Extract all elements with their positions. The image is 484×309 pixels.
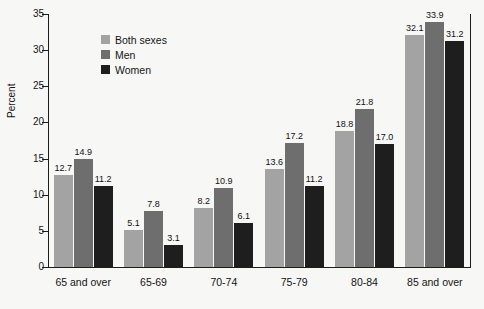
bar-value-label: 33.9 <box>426 10 444 21</box>
x-axis-category-label: 85 and over <box>407 276 462 288</box>
bar: 3.1 <box>164 245 183 267</box>
bar-value-label: 17.2 <box>285 131 303 142</box>
legend-item-label: Women <box>115 64 151 76</box>
bar: 17.2 <box>285 143 304 267</box>
bar: 11.2 <box>305 186 324 267</box>
bar: 7.8 <box>144 211 163 267</box>
bar-value-label: 6.1 <box>238 211 251 222</box>
bar-value-label: 5.1 <box>127 218 140 229</box>
bar-value-label: 32.1 <box>406 23 424 34</box>
bar-group: 8.210.96.1 <box>194 14 253 267</box>
y-axis-tick-label: 20 <box>33 115 44 128</box>
legend-swatch-icon <box>101 35 110 44</box>
x-axis-category-label: 65 and over <box>55 276 110 288</box>
chart-legend: Both sexesMenWomen <box>101 33 167 78</box>
x-axis-category-label: 65-69 <box>140 276 167 288</box>
y-axis-title: Percent <box>6 84 17 118</box>
bar-value-label: 11.2 <box>95 174 112 185</box>
bar: 5.1 <box>124 230 143 267</box>
bar: 6.1 <box>234 223 253 267</box>
bar-value-label: 31.2 <box>446 29 464 40</box>
legend-swatch-icon <box>101 65 110 74</box>
bar-group: 18.821.817.0 <box>335 14 394 267</box>
bar: 11.2 <box>94 186 113 267</box>
y-axis-tick-label: 25 <box>33 79 44 92</box>
x-axis-category-label: 70-74 <box>210 276 237 288</box>
x-axis-category-label: 80-84 <box>351 276 378 288</box>
bar: 14.9 <box>74 159 93 267</box>
plot-right-border <box>470 14 471 268</box>
bar: 12.7 <box>54 175 73 267</box>
bar-value-label: 7.8 <box>147 199 160 210</box>
bar-value-label: 8.2 <box>198 196 211 207</box>
bar: 31.2 <box>445 41 464 267</box>
bar: 33.9 <box>425 22 444 267</box>
bar: 32.1 <box>405 35 424 267</box>
bar-chart-figure: Percent 05101520253035 12.714.911.25.17.… <box>0 0 484 309</box>
y-axis-tick-label: 5 <box>38 224 44 237</box>
bar-value-label: 18.8 <box>336 119 354 130</box>
bar-value-label: 13.6 <box>265 157 283 168</box>
bar-value-label: 11.2 <box>306 174 323 185</box>
legend-item: Both sexes <box>101 33 167 46</box>
bar-group: 13.617.211.2 <box>265 14 324 267</box>
x-axis-category-label: 75-79 <box>281 276 308 288</box>
bar: 13.6 <box>265 169 284 267</box>
legend-item-label: Both sexes <box>115 34 167 46</box>
bar-value-label: 14.9 <box>74 147 92 158</box>
bar-value-label: 12.7 <box>54 163 72 174</box>
x-axis-line <box>48 267 471 268</box>
bar: 21.8 <box>355 109 374 267</box>
y-axis-tick-label: 15 <box>33 152 44 165</box>
legend-item-label: Men <box>115 49 135 61</box>
bar-value-label: 21.8 <box>356 97 374 108</box>
legend-item: Men <box>101 48 167 61</box>
bar: 17.0 <box>375 144 394 267</box>
bar-value-label: 17.0 <box>376 132 394 143</box>
bar-group: 32.133.931.2 <box>405 14 464 267</box>
legend-swatch-icon <box>101 50 110 59</box>
bar-value-label: 3.1 <box>167 233 180 244</box>
y-axis-tick-label: 0 <box>38 260 44 273</box>
y-axis-tick-label: 10 <box>33 188 44 201</box>
bar: 18.8 <box>335 131 354 267</box>
bar: 8.2 <box>194 208 213 267</box>
bar: 10.9 <box>214 188 233 267</box>
legend-item: Women <box>101 63 167 76</box>
y-axis-tick-label: 35 <box>33 7 44 20</box>
bar-value-label: 10.9 <box>215 176 233 187</box>
y-axis-tick-label: 30 <box>33 43 44 56</box>
